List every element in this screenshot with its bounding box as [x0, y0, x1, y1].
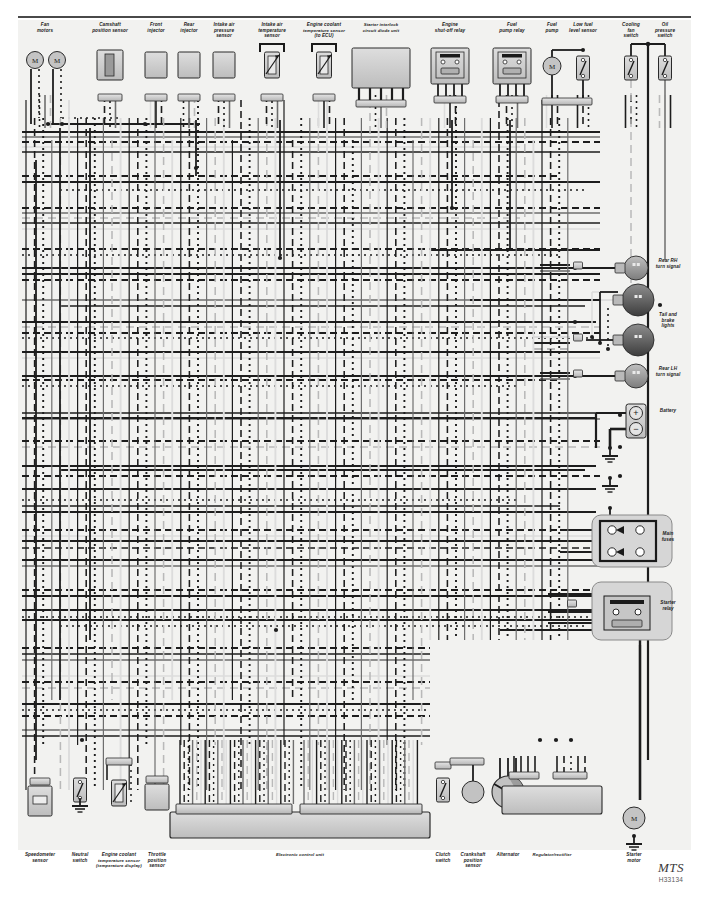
battery-minus-glyph: −: [633, 424, 638, 434]
filament-mark: [639, 295, 642, 298]
label-engine-coolant-temperature-sensor-ecu: Engine coolant: [307, 22, 342, 27]
junction-dot: [60, 122, 64, 126]
junction-dot: [581, 48, 585, 52]
relay-body: [493, 48, 531, 84]
fuse-terminal: [608, 526, 616, 534]
connector-block: [356, 100, 406, 107]
relay-contact: [503, 60, 507, 64]
motor-glyph: M: [631, 815, 638, 823]
label-cooling-fan-switch: switch: [624, 33, 639, 38]
label-crankshaft-position-sensor: sensor: [465, 863, 481, 868]
turn-signal-lamp: [624, 364, 648, 388]
relay-bar: [610, 600, 644, 604]
relay-contact: [517, 60, 521, 64]
connector-block: [434, 96, 466, 103]
connector-block: [146, 776, 168, 783]
connector-block: [106, 758, 132, 765]
label-tail-and-brake-lights: Tail and: [659, 312, 677, 317]
label-intake-air-temperature-sensor: temperature: [258, 28, 286, 33]
junction-dot: [538, 738, 542, 742]
lamp-base: [615, 263, 625, 273]
label-throttle-position-sensor: sensor: [149, 863, 165, 868]
relay-terminal: [613, 609, 619, 615]
label-crankshaft-position-sensor: position: [463, 858, 483, 863]
connector-block: [98, 94, 122, 101]
lamp-base: [615, 371, 625, 381]
relay-coil-bar: [502, 54, 522, 58]
label-starter-interlock-circuit-diode-unit: Starter interlock: [364, 22, 399, 27]
label-rear-rh-turn-signal: Rear RH: [659, 258, 678, 263]
label-oil-pressure-switch: pressure: [654, 28, 676, 33]
label-speedometer-sensor: Speedometer: [25, 852, 55, 857]
switch-terminal: [629, 58, 632, 61]
junction-dot: [618, 413, 622, 417]
label-front-injector: injector: [147, 28, 165, 33]
connector-block: [574, 262, 583, 269]
label-rear-injector: Rear: [184, 22, 195, 27]
injector-body: [213, 52, 235, 78]
label-oil-pressure-switch: switch: [658, 33, 673, 38]
junction-dot: [80, 738, 84, 742]
label-regulator-rectifier: Regulator/rectifier: [533, 852, 572, 857]
label-engine-coolant-temperature-sensor-ecu: (to ECU): [314, 33, 334, 38]
ecu-connector-left: [176, 804, 292, 814]
label-crankshaft-position-sensor: Crankshaft: [461, 852, 486, 857]
switch-terminal: [441, 796, 444, 799]
junction-dot: [46, 122, 50, 126]
fuse-terminal: [636, 548, 644, 556]
relay-coil: [612, 620, 642, 627]
connector-block: [542, 98, 592, 105]
connector-block: [450, 758, 484, 765]
mts-watermark: MTS: [657, 860, 684, 875]
label-cooling-fan-switch: fan: [627, 28, 634, 33]
label-clutch-switch: switch: [436, 858, 451, 863]
code-watermark: H33134: [659, 876, 684, 883]
diode-unit-body: [352, 48, 410, 88]
label-alternator: Alternator: [496, 852, 520, 857]
label-fuel-pump: pump: [545, 28, 559, 33]
relay-coil: [441, 68, 459, 74]
label-engine-shut-off-relay: shut-off relay: [435, 28, 466, 33]
label-fuel-pump: Fuel: [547, 22, 557, 27]
filament-mark: [637, 371, 640, 374]
switch-terminal: [581, 74, 584, 77]
label-camshaft-position-sensor: position sensor: [91, 28, 128, 33]
switch-terminal: [663, 58, 666, 61]
connector-block: [145, 94, 167, 101]
label-fan-motors: Fan: [41, 22, 50, 27]
tps-body: [145, 784, 169, 810]
label-main-fuses: fuses: [662, 537, 675, 542]
connector-block: [496, 96, 528, 103]
switch-terminal: [441, 780, 444, 783]
tail-brake-lamp: [622, 284, 654, 316]
speedo-window: [33, 796, 47, 804]
fuse-terminal: [636, 526, 644, 534]
label-rear-injector: injector: [180, 28, 198, 33]
filament-mark: [635, 335, 638, 338]
ecu-body: [170, 812, 430, 838]
switch-terminal: [78, 780, 81, 783]
lamp-base: [613, 295, 623, 305]
battery-plus-glyph: +: [633, 408, 638, 418]
junction-dot: [554, 738, 558, 742]
junction-dot: [569, 738, 573, 742]
motor-glyph: M: [54, 57, 61, 65]
junction-dot: [194, 166, 198, 170]
junction-dot: [590, 335, 594, 339]
label-fuel-pump-relay: Fuel: [507, 22, 517, 27]
label-speedometer-sensor: sensor: [32, 858, 48, 863]
switch-terminal: [629, 74, 632, 77]
fuse-terminal: [608, 548, 616, 556]
connector-block: [509, 772, 539, 779]
label-neutral-switch: Neutral: [72, 852, 89, 857]
label-intake-air-temperature-sensor: Intake air: [261, 22, 282, 27]
label-engine-coolant-temperature-sensor-ecu: temperature sensor: [303, 28, 345, 33]
relay-contact: [455, 60, 459, 64]
label-low-fuel-level-sensor: level sensor: [569, 28, 597, 33]
label-electronic-control-unit: Electronic control unit: [276, 852, 324, 857]
junction-dot: [618, 474, 622, 478]
label-front-injector: Front: [150, 22, 163, 27]
connector-block: [178, 94, 200, 101]
tail-brake-lamp: [622, 324, 654, 356]
ecu-connector-right: [300, 804, 422, 814]
